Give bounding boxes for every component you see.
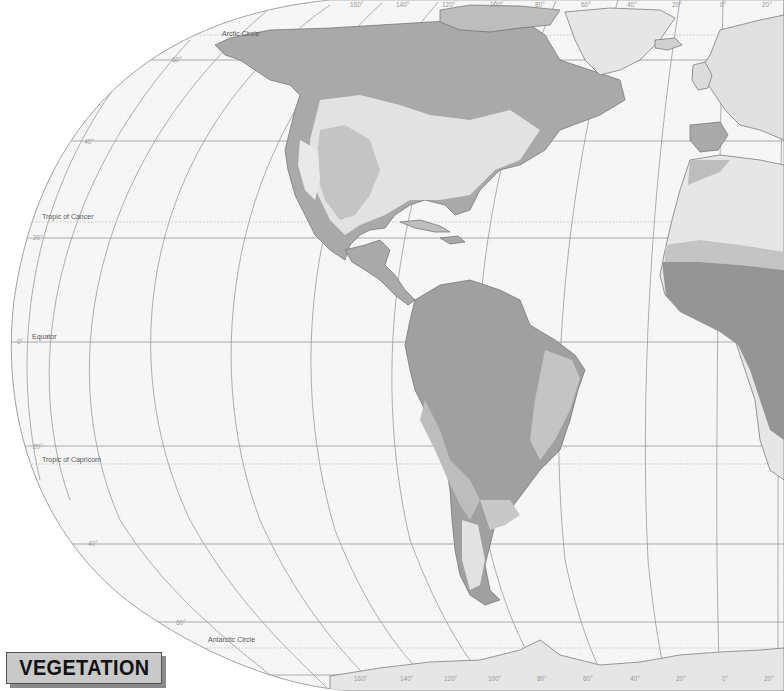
lon-top-100w: 100° xyxy=(490,1,504,8)
lon-top-80w: 80° xyxy=(535,1,545,8)
lon-bottom-80w: 80° xyxy=(537,675,547,682)
lat-40n-label: 40° xyxy=(84,138,94,145)
lat-60s-label: 60° xyxy=(176,619,186,626)
lat-0-label: 0° xyxy=(17,338,24,345)
lat-60n-label: 60° xyxy=(172,56,182,63)
lon-bottom-0: 0° xyxy=(722,675,729,682)
lon-top-40w: 40° xyxy=(627,1,637,8)
lat-20n-label: 20° xyxy=(33,234,43,241)
lon-bottom-120w: 120° xyxy=(444,675,458,682)
map-title-box: VEGETATION xyxy=(6,652,162,684)
equator-label: Equator xyxy=(32,333,57,341)
arctic-circle-label: Arctic Circle xyxy=(222,30,259,37)
lon-bottom-60w: 60° xyxy=(583,675,593,682)
lon-bottom-160w: 160° xyxy=(354,675,368,682)
vegetation-map: Arctic Circle Tropic of Cancer Equator T… xyxy=(0,0,784,691)
lon-top-60w: 60° xyxy=(581,1,591,8)
lon-top-20e: 20° xyxy=(762,1,772,8)
lon-top-120w: 120° xyxy=(442,1,456,8)
lon-bottom-100w: 100° xyxy=(488,675,502,682)
lon-bottom-20w: 20° xyxy=(676,675,686,682)
lon-top-20w: 20° xyxy=(672,1,682,8)
lon-bottom-20e: 20° xyxy=(764,675,774,682)
lon-top-160w: 160° xyxy=(350,1,364,8)
antarctic-circle-label: Antarctic Circle xyxy=(208,636,255,643)
map-title: VEGETATION xyxy=(19,655,149,681)
lon-top-0: 0° xyxy=(720,1,727,8)
tropic-of-capricorn-label: Tropic of Capricorn xyxy=(42,456,101,464)
lat-20s-label: 20° xyxy=(33,443,43,450)
lat-40s-label: 40° xyxy=(88,540,98,547)
lon-top-140w: 140° xyxy=(396,1,410,8)
lon-bottom-140w: 140° xyxy=(400,675,414,682)
lon-bottom-40w: 40° xyxy=(630,675,640,682)
tropic-of-cancer-label: Tropic of Cancer xyxy=(42,213,94,221)
